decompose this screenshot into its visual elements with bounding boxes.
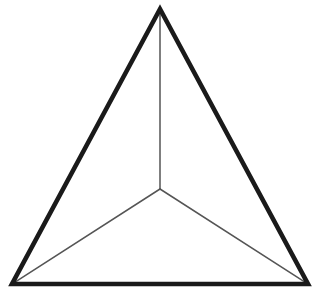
tetrahedron-svg [0, 0, 320, 291]
tetrahedron-figure [0, 0, 320, 291]
